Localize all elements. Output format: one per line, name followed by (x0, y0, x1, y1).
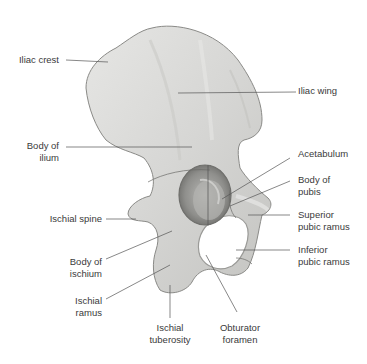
label-inferior-pubic-ramus: Inferior pubic ramus (298, 244, 350, 268)
label-obturator-foramen: Obturator foramen (210, 322, 270, 346)
label-superior-pubic-ramus: Superior pubic ramus (298, 209, 350, 233)
label-iliac-crest: Iliac crest (3, 54, 59, 66)
label-ischial-spine: Ischial spine (20, 213, 102, 225)
label-acetabulum: Acetabulum (298, 148, 348, 160)
label-iliac-wing: Iliac wing (298, 85, 337, 97)
label-ischial-ramus: Ischial ramus (40, 295, 102, 319)
label-body-of-ilium: Body of ilium (3, 140, 59, 164)
label-body-of-pubis: Body of pubis (298, 174, 330, 198)
label-ischial-tuberosity: Ischial tuberosity (140, 322, 200, 346)
label-body-of-ischium: Body of ischium (40, 256, 102, 280)
